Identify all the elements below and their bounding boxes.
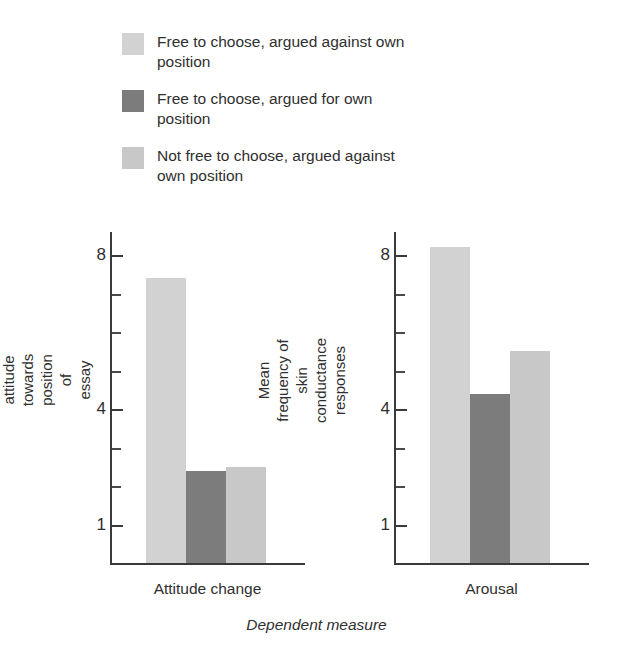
x-axis-label: Dependent measure: [0, 616, 633, 634]
y-tick-label: 8: [381, 245, 390, 265]
bar-group-right: [396, 232, 550, 563]
bar-group-left: [112, 232, 266, 563]
y-axis-label: Mean change in attitude towards position…: [0, 215, 40, 545]
legend-item-label: Not free to choose, argued against own p…: [157, 146, 427, 186]
legend-item: Free to choose, argued for own position: [122, 89, 462, 129]
category-label-arousal: Arousal: [394, 580, 589, 598]
y-axis-label: Mean frequency of skin conductance respo…: [280, 215, 324, 545]
category-label-attitude-change: Attitude change: [110, 580, 305, 598]
bar-1: [430, 247, 470, 563]
chart-legend: Free to choose, argued against own posit…: [122, 32, 462, 203]
legend-swatch-icon: [122, 90, 144, 112]
legend-swatch-icon: [122, 147, 144, 169]
legend-item-label: Free to choose, argued against own posit…: [157, 32, 427, 72]
y-tick-label: 1: [381, 515, 390, 535]
legend-item-label: Free to choose, argued for own position: [157, 89, 427, 129]
panel-arousal: Mean frequency of skin conductance respo…: [332, 210, 602, 610]
bar-2: [186, 471, 226, 563]
y-tick-label: 4: [97, 399, 106, 419]
y-tick-label: 8: [97, 245, 106, 265]
y-tick-label: 4: [381, 399, 390, 419]
x-axis-line: [110, 563, 305, 565]
legend-swatch-icon: [122, 33, 144, 55]
bar-3: [226, 467, 266, 563]
bar-2: [470, 394, 510, 563]
x-axis-line: [394, 563, 589, 565]
bar-chart-figure: Free to choose, argued against own posit…: [0, 0, 633, 654]
legend-item: Free to choose, argued against own posit…: [122, 32, 462, 72]
bar-1: [146, 278, 186, 563]
plot-area-right: 841: [394, 232, 589, 565]
legend-item: Not free to choose, argued against own p…: [122, 146, 462, 186]
y-tick-label: 1: [97, 515, 106, 535]
bar-3: [510, 351, 550, 563]
